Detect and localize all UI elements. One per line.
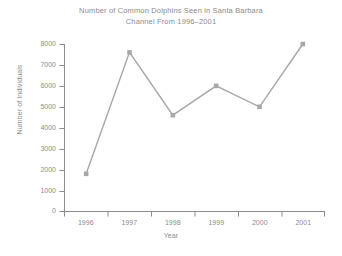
xtick-label-1999: 1999 <box>195 219 239 226</box>
ytick-label-6000: 6000 <box>24 82 56 89</box>
data-point-1996 <box>84 172 89 177</box>
xtick-label-2001: 2001 <box>282 219 326 226</box>
xtick-label-2000: 2000 <box>238 219 282 226</box>
data-point-2001 <box>301 42 306 47</box>
data-point-1998 <box>171 113 176 118</box>
x-axis-title: Year <box>0 232 342 239</box>
ytick-label-8000: 8000 <box>24 40 56 47</box>
xtick-label-1998: 1998 <box>151 219 195 226</box>
data-point-1997 <box>127 50 132 55</box>
ytick-label-4000: 4000 <box>24 124 56 131</box>
chart-figure: Number of Common Dolphins Seen in Santa … <box>0 0 342 256</box>
x-axis-ticks <box>65 212 325 217</box>
xtick-label-1997: 1997 <box>108 219 152 226</box>
data-series-line <box>86 44 303 174</box>
ytick-label-1000: 1000 <box>24 187 56 194</box>
ytick-label-5000: 5000 <box>24 103 56 110</box>
data-point-2000 <box>257 105 262 110</box>
ytick-label-2000: 2000 <box>24 166 56 173</box>
ytick-label-7000: 7000 <box>24 61 56 68</box>
data-series-markers <box>84 42 305 176</box>
xtick-label-1996: 1996 <box>64 219 108 226</box>
ytick-label-0: 0 <box>24 207 56 214</box>
y-axis-title: Number of Individuals <box>16 55 23 145</box>
ytick-label-3000: 3000 <box>24 145 56 152</box>
data-point-1999 <box>214 84 219 89</box>
y-axis-ticks <box>60 45 65 212</box>
